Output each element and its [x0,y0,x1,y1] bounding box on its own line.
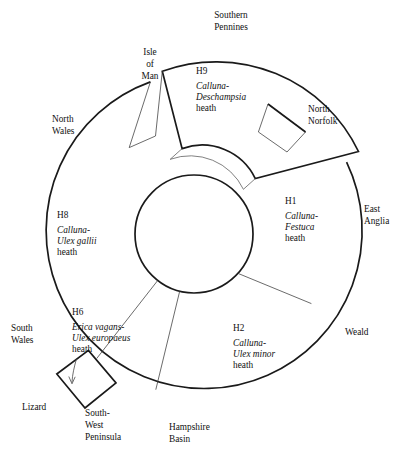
diagram-canvas: H9 Calluna- Deschampsia heath H1 Calluna… [0,0,412,460]
lizard-line-1: Lizard [22,402,47,412]
sector-h2-habitat: heath [233,360,253,370]
north-wales-line-2: Wales [52,126,75,136]
north-wales-line-1: North [52,114,74,124]
isle-of-man-line-2: of [146,59,155,69]
south-west-peninsula-line-2: West [85,420,104,430]
southern-pennines-line-2: Pennines [214,22,248,32]
sector-h2-species-line-2: Ulex minor [233,349,275,359]
inner-circle [135,175,253,293]
south-west-peninsula-line-3: Peninsula [85,432,121,442]
sector-h2-code: H2 [233,323,245,333]
sector-h9-species-line-2: Deschampsia [195,92,246,102]
sector-h8-species-line-1: Calluna- [57,225,90,235]
region-label-southern-pennines: Southern Pennines [214,10,248,32]
isle-of-man-line-3: Man [141,71,158,81]
sector-h8-label: H8 Calluna- Ulex gallii heath [57,210,97,257]
sector-h2-species-line-1: Calluna- [233,338,266,348]
region-label-lizard: Lizard [22,402,47,412]
sector-h9-species-line-1: Calluna- [196,81,229,91]
heath-community-diagram: H9 Calluna- Deschampsia heath H1 Calluna… [0,0,412,460]
sector-h8-species-line-2: Ulex gallii [57,236,97,246]
region-label-hampshire-basin: Hampshire Basin [169,422,210,444]
region-label-north-wales: North Wales [52,114,75,136]
hampshire-basin-line-1: Hampshire [169,422,210,432]
southern-pennines-line-1: Southern [214,10,248,20]
sector-h8-habitat: heath [57,247,77,257]
region-label-south-west-peninsula: South- West Peninsula [85,408,121,442]
east-anglia-line-2: Anglia [364,216,389,226]
sector-h9-code: H9 [196,66,208,76]
sector-h6-label: H6 Erica vagans- Ulex europaeus heath [71,307,131,354]
lizard-quadrilateral [57,350,116,408]
south-wales-line-2: Wales [11,335,34,345]
region-label-south-wales: South Wales [11,323,34,345]
region-label-isle-of-man: Isle of Man [141,47,158,81]
region-label-weald: Weald [345,327,369,337]
south-west-peninsula-line-1: South- [85,408,110,418]
divider-h6-h8 [97,281,158,359]
hampshire-basin-line-2: Basin [169,434,191,444]
sector-h6-habitat: heath [72,344,92,354]
north-norfolk-line-1: North [308,104,330,114]
east-anglia-line-1: East [364,204,380,214]
divider-h2-h6 [156,291,180,390]
sector-h1-code: H1 [285,196,297,206]
sector-h6-species-line-2: Ulex europaeus [72,333,131,343]
sector-h1-label: H1 Calluna- Festuca heath [284,196,318,243]
isle-of-man-line-1: Isle [143,47,156,57]
sector-h1-species-line-2: Festuca [284,222,315,232]
isle-of-man-wedge-inner [129,82,150,148]
weald-line-1: Weald [345,327,369,337]
sector-h1-habitat: heath [285,233,305,243]
sector-h1-species-line-1: Calluna- [285,211,318,221]
sector-h2-label: H2 Calluna- Ulex minor heath [233,323,275,370]
sector-h6-species-line-1: Erica vagans- [71,322,124,332]
h9-origin-inner-arc [170,156,243,189]
sector-h9-habitat: heath [196,103,216,113]
divider-h1-h2 [238,274,311,304]
isle-of-man-wedge [129,71,162,147]
sector-h6-code: H6 [72,307,84,317]
north-norfolk-line-2: Norfolk [308,116,338,126]
sector-h8-code: H8 [57,210,69,220]
h9-leader-right [243,179,255,190]
south-wales-line-1: South [11,323,33,333]
region-label-east-anglia: East Anglia [364,204,389,226]
